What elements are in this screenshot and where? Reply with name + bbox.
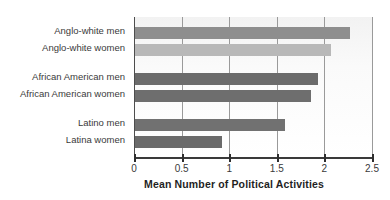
gridline-2.5 bbox=[372, 17, 373, 157]
x-tick-label-1: 1 bbox=[226, 163, 232, 174]
y-axis-line bbox=[134, 17, 135, 158]
x-tick-1.5 bbox=[277, 154, 279, 162]
x-tick-1 bbox=[229, 154, 231, 162]
category-label-african-american-men: African American men bbox=[32, 72, 125, 82]
x-tick-label-0.5: 0.5 bbox=[175, 163, 189, 174]
x-tick-2 bbox=[324, 154, 326, 162]
x-axis-title-text: Mean Number of Political Activities bbox=[144, 178, 324, 190]
category-axis-labels: Anglo-white men Anglo-white women Africa… bbox=[0, 17, 130, 157]
bar-anglo-white-men bbox=[134, 27, 350, 39]
x-tick-label-0: 0 bbox=[131, 163, 137, 174]
category-label-anglo-white-women: Anglo-white women bbox=[42, 43, 125, 53]
horizontal-bar-chart: Anglo-white men Anglo-white women Africa… bbox=[0, 0, 390, 200]
category-label-anglo-white-men: Anglo-white men bbox=[54, 26, 125, 36]
plot-area bbox=[134, 17, 372, 157]
x-axis-line bbox=[134, 157, 372, 159]
category-label-latina-women: Latina women bbox=[66, 135, 125, 145]
x-tick-2.5 bbox=[372, 154, 374, 162]
bar-latino-men bbox=[134, 119, 285, 131]
bar-african-american-women bbox=[134, 90, 311, 102]
category-label-latino-men: Latino men bbox=[78, 118, 125, 128]
bar-african-american-men bbox=[134, 73, 318, 85]
x-tick-label-1.5: 1.5 bbox=[270, 163, 284, 174]
x-tick-0.5 bbox=[182, 154, 184, 162]
bar-anglo-white-women bbox=[134, 44, 331, 56]
x-tick-0 bbox=[134, 154, 136, 162]
x-tick-label-2: 2 bbox=[322, 163, 328, 174]
x-axis-title: Mean Number of Political Activities bbox=[0, 178, 390, 190]
x-tick-label-2.5: 2.5 bbox=[365, 163, 379, 174]
category-label-african-american-women: African American women bbox=[20, 89, 125, 99]
bar-latina-women bbox=[134, 136, 222, 148]
